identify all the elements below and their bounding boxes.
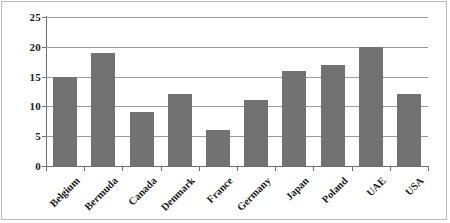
bar-france — [206, 130, 230, 166]
x-tick-label-france: France — [205, 175, 235, 205]
y-tick-label-25: 25 — [30, 11, 41, 23]
x-tick-mark-origin — [46, 166, 47, 171]
y-tick-label-0: 0 — [35, 160, 41, 172]
x-tick-mark-8 — [390, 166, 391, 171]
y-tick-label-20: 20 — [30, 41, 41, 53]
x-tick-label-uae: UAE — [364, 175, 387, 198]
x-tick-label-text: USA — [403, 175, 426, 198]
x-tick-label-text: Japan — [284, 175, 311, 202]
x-tick-label-text: France — [205, 175, 235, 205]
x-tick-mark-6 — [313, 166, 314, 171]
gridline-25 — [46, 17, 428, 18]
x-tick-label-poland: Poland — [319, 175, 349, 205]
x-tick-label-text: Germany — [235, 175, 273, 213]
bar-uae — [359, 47, 383, 166]
x-tick-label-denmark: Denmark — [159, 175, 197, 213]
x-tick-mark-9 — [428, 166, 429, 171]
bar-poland — [321, 65, 345, 166]
x-tick-label-canada: Canada — [126, 175, 159, 208]
x-tick-mark-1 — [122, 166, 123, 171]
x-tick-label-text: Bermuda — [83, 175, 120, 212]
bar-usa — [397, 94, 421, 166]
y-tick-label-5: 5 — [35, 130, 41, 142]
y-tick-label-15: 15 — [30, 71, 41, 83]
bar-belgium — [53, 77, 77, 166]
bar-bermuda — [91, 53, 115, 166]
bar-canada — [130, 112, 154, 166]
x-tick-mark-0 — [84, 166, 85, 171]
x-tick-mark-4 — [237, 166, 238, 171]
y-axis-tick-labels: 0510152025 — [0, 0, 41, 223]
bar-germany — [244, 100, 268, 166]
plot-area — [46, 17, 428, 166]
x-tick-mark-7 — [352, 166, 353, 171]
bar-japan — [282, 71, 306, 166]
x-tick-label-text: Canada — [126, 175, 159, 208]
x-tick-label-text: Denmark — [159, 175, 197, 213]
x-tick-label-text: Poland — [319, 175, 349, 205]
x-tick-mark-5 — [275, 166, 276, 171]
y-tick-label-10: 10 — [30, 100, 41, 112]
x-tick-mark-2 — [161, 166, 162, 171]
x-tick-label-usa: USA — [403, 175, 426, 198]
x-tick-label-bermuda: Bermuda — [83, 175, 120, 212]
x-tick-label-japan: Japan — [284, 175, 311, 202]
x-tick-label-text: UAE — [364, 175, 387, 198]
bar-chart-figure: 0510152025 BelgiumBermudaCanadaDenmarkFr… — [0, 0, 450, 223]
bar-denmark — [168, 94, 192, 166]
x-tick-label-belgium: Belgium — [48, 175, 82, 209]
x-tick-label-text: Belgium — [48, 175, 82, 209]
x-tick-label-germany: Germany — [235, 175, 273, 213]
x-tick-mark-3 — [199, 166, 200, 171]
